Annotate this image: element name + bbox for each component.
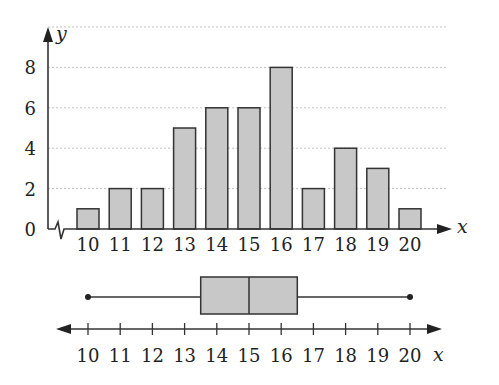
bar-12 <box>141 189 163 229</box>
x-tick-labels: 1011121314151617181920 <box>77 234 422 255</box>
y-tick-labels: 02468 <box>25 57 36 240</box>
x-tick-label: 11 <box>109 234 132 255</box>
x-tick-label: 13 <box>173 234 196 255</box>
bar-10 <box>77 209 99 229</box>
number-line-tick-label: 12 <box>141 345 164 366</box>
number-line-tick-label: 17 <box>302 345 325 366</box>
number-line-right-arrow-icon <box>427 324 442 334</box>
bar-17 <box>302 189 324 229</box>
x-tick-label: 15 <box>238 234 261 255</box>
bar-20 <box>399 209 421 229</box>
bar-18 <box>335 148 357 229</box>
y-tick-label: 4 <box>25 138 36 159</box>
bar-19 <box>367 168 389 229</box>
y-tick-label: 6 <box>25 98 36 119</box>
bar-13 <box>174 128 196 229</box>
x-tick-label: 20 <box>399 234 422 255</box>
x-tick-label: 19 <box>366 234 389 255</box>
bar-16 <box>270 67 292 229</box>
number-line-tick-label: 15 <box>238 345 261 366</box>
number-line-left-arrow-icon <box>56 324 71 334</box>
boxplot <box>85 277 413 314</box>
x-axis-arrow-icon <box>437 224 452 234</box>
y-axis-arrow-icon <box>43 27 53 42</box>
number-line-tick-label: 20 <box>399 345 422 366</box>
y-tick-label: 8 <box>25 57 36 78</box>
min-point <box>85 294 91 300</box>
number-line-x-label: x <box>433 343 444 365</box>
bar-15 <box>238 108 260 229</box>
number-line-tick-label: 16 <box>270 345 293 366</box>
number-line-tick-label: 14 <box>205 345 228 366</box>
x-tick-label: 16 <box>270 234 293 255</box>
x-axis-label: x <box>457 215 468 237</box>
number-line-tick-label: 10 <box>77 345 100 366</box>
x-tick-label: 12 <box>141 234 164 255</box>
x-tick-label: 17 <box>302 234 325 255</box>
number-line-tick-label: 19 <box>366 345 389 366</box>
bar-14 <box>206 108 228 229</box>
histogram-boxplot-figure: y x 02468 1011121314151617181920 x 10111… <box>0 0 499 385</box>
chart-canvas: y x 02468 1011121314151617181920 x 10111… <box>0 0 499 385</box>
y-tick-label: 2 <box>25 179 36 200</box>
bar-11 <box>109 189 131 229</box>
x-tick-label: 10 <box>77 234 100 255</box>
number-line-tick-label: 18 <box>334 345 357 366</box>
x-tick-label: 18 <box>334 234 357 255</box>
y-axis-label: y <box>55 22 67 44</box>
y-tick-label: 0 <box>25 219 36 240</box>
number-line-tick-label: 13 <box>173 345 196 366</box>
number-line-tick-label: 11 <box>109 345 132 366</box>
x-tick-label: 14 <box>205 234 228 255</box>
max-point <box>407 294 413 300</box>
